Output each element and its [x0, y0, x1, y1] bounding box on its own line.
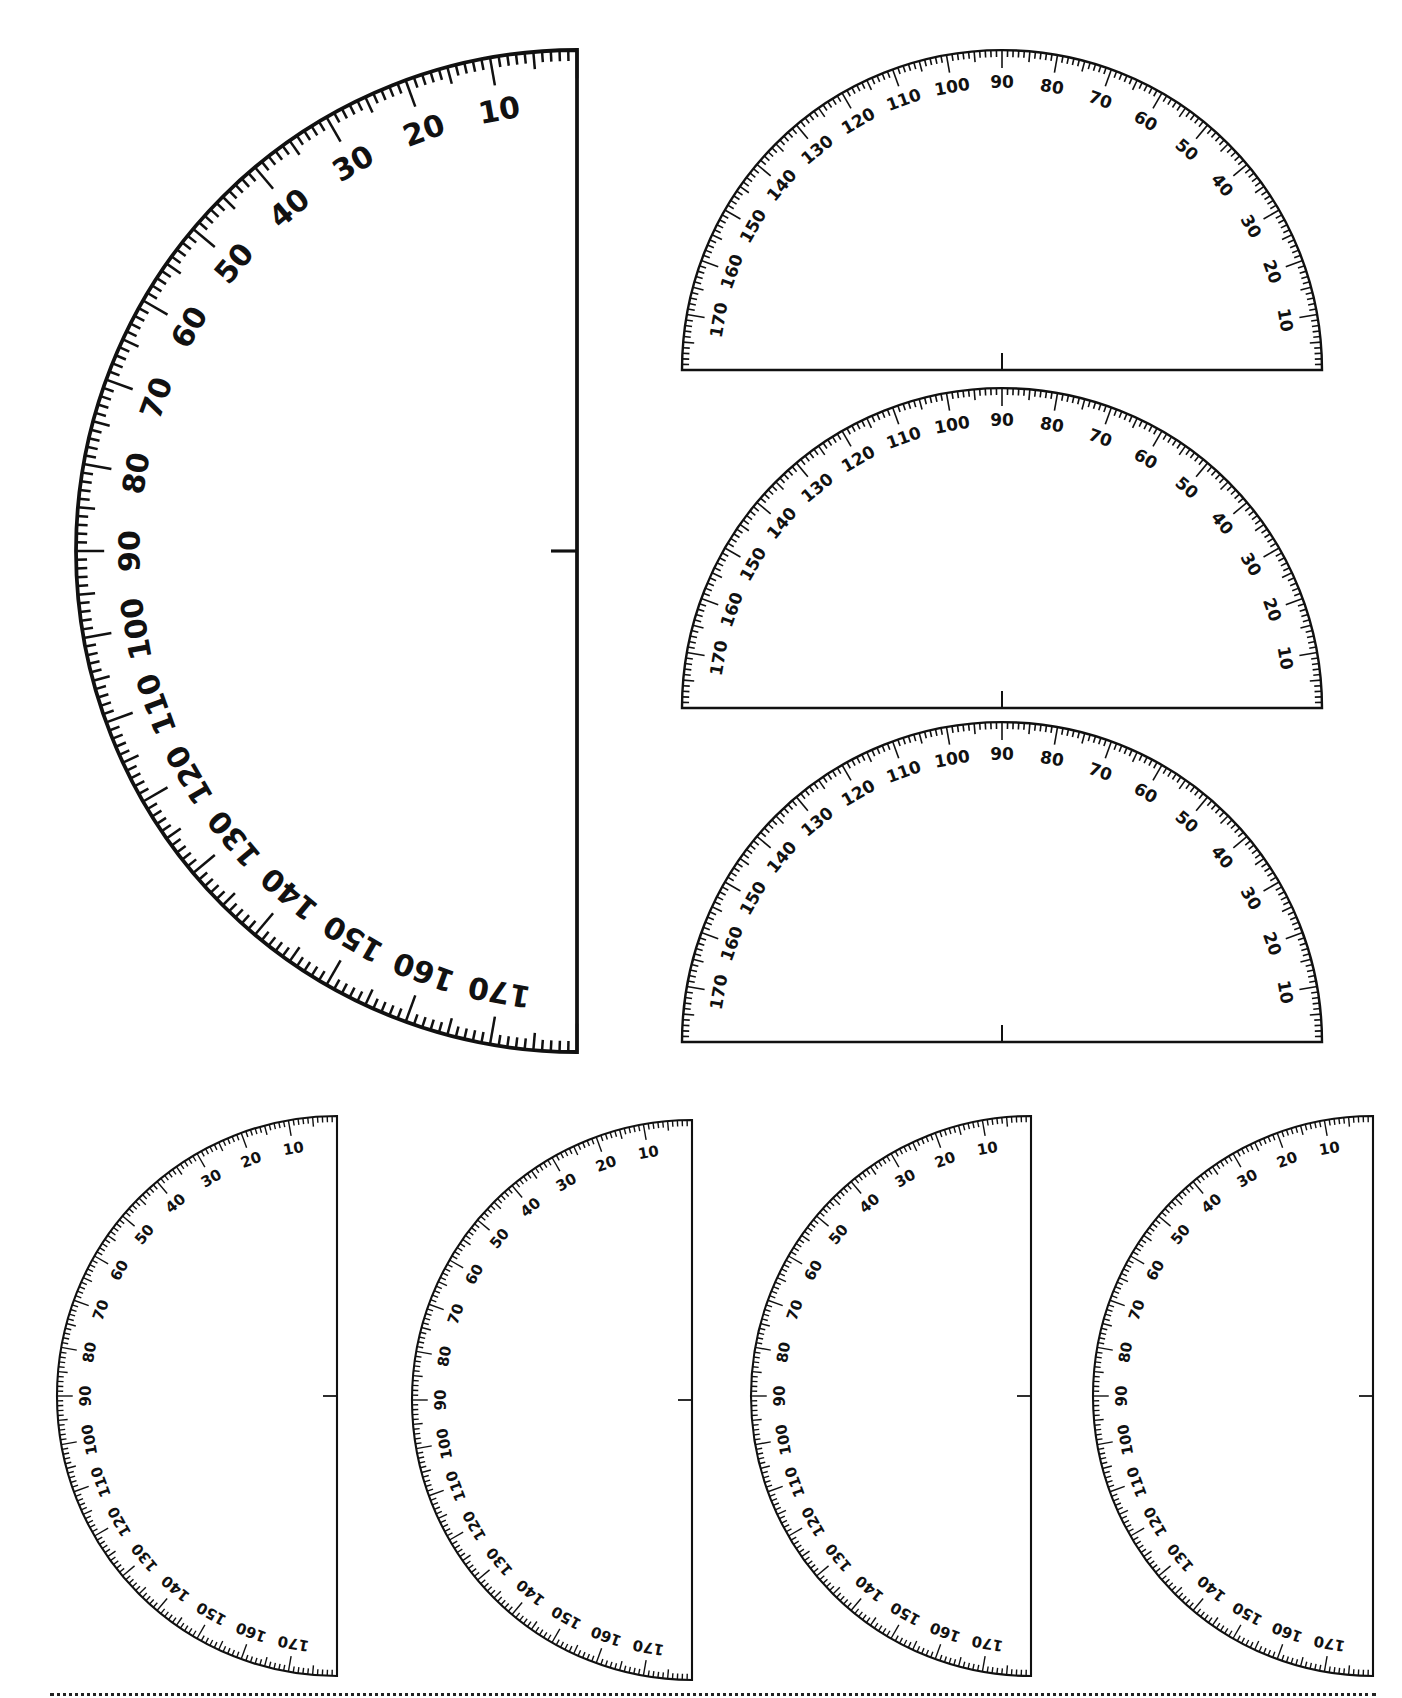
tick-mark [917, 1646, 919, 1652]
tick-mark [77, 1499, 83, 1501]
tick-mark [293, 1667, 294, 1673]
tick-mark [823, 777, 827, 783]
tick-mark [520, 1616, 524, 1621]
tick-mark [768, 1300, 783, 1305]
tick-mark [1249, 173, 1255, 177]
tick-mark [694, 282, 701, 284]
tick-mark [954, 1659, 956, 1665]
tick-mark [105, 1549, 110, 1552]
tick-mark [753, 1367, 759, 1368]
tick-mark [142, 1593, 146, 1597]
tick-mark [1329, 1667, 1330, 1673]
tick-mark [1097, 1442, 1113, 1445]
tick-mark [172, 1618, 176, 1623]
tick-mark [447, 1018, 451, 1035]
tick-mark [512, 1602, 522, 1614]
tick-mark [1231, 490, 1236, 495]
tick-mark [946, 55, 949, 73]
tick-mark [223, 1646, 225, 1652]
tick-mark [807, 1227, 812, 1231]
tick-mark [274, 1663, 275, 1669]
tick-mark [1264, 1138, 1266, 1144]
tick-mark [162, 271, 171, 277]
tick-mark [810, 1565, 815, 1569]
tick-mark [406, 995, 416, 1021]
tick-mark [1264, 1648, 1266, 1654]
tick-mark [1278, 892, 1284, 895]
tick-mark [605, 1134, 607, 1140]
tick-mark [177, 249, 186, 256]
degree-label: 40 [1207, 508, 1238, 539]
tick-mark [1051, 54, 1052, 61]
tick-mark [722, 887, 728, 890]
tick-mark [90, 1525, 95, 1528]
tick-mark [643, 1660, 646, 1676]
tick-mark [752, 1420, 762, 1421]
degree-label: 110 [129, 669, 183, 740]
degree-label: 170 [706, 301, 732, 340]
tick-mark [65, 1328, 71, 1329]
degree-label: 110 [884, 422, 924, 453]
tick-mark [1313, 675, 1320, 676]
tick-mark [1179, 446, 1185, 455]
tick-mark [776, 144, 784, 152]
tick-mark [312, 967, 318, 976]
tick-mark [426, 1485, 432, 1487]
tick-mark [1178, 1195, 1182, 1199]
tick-mark [703, 927, 710, 930]
tick-mark [1311, 320, 1318, 321]
tick-mark [763, 1476, 769, 1478]
tick-mark [1199, 121, 1203, 126]
tick-mark [381, 1002, 385, 1012]
tick-mark [931, 1652, 933, 1658]
tick-mark [193, 1156, 196, 1161]
tick-mark [1155, 1568, 1160, 1572]
degree-label: 10 [476, 89, 523, 131]
tick-mark [1311, 992, 1318, 993]
tick-mark [756, 1448, 762, 1449]
tick-mark [592, 1656, 594, 1662]
tick-mark [1250, 1642, 1253, 1648]
degree-label: 130 [200, 804, 267, 874]
degree-label: 110 [781, 1464, 809, 1500]
tick-mark [759, 1462, 765, 1463]
tick-mark [832, 771, 836, 777]
tick-mark [753, 169, 758, 173]
tick-mark [1186, 1188, 1190, 1193]
tick-mark [1138, 1244, 1143, 1247]
tick-mark [97, 1252, 102, 1255]
tick-mark [350, 105, 355, 115]
tick-mark [710, 912, 716, 915]
tick-mark [801, 121, 805, 126]
tick-mark [712, 235, 722, 240]
tick-mark [162, 825, 171, 831]
degree-label: 160 [716, 251, 747, 291]
tick-mark [1300, 625, 1311, 628]
tick-mark [1312, 663, 1319, 664]
tick-mark [922, 1138, 924, 1144]
degree-label: 50 [1171, 806, 1202, 837]
tick-mark [58, 1372, 68, 1373]
tick-mark [1046, 391, 1047, 398]
tick-mark [464, 63, 466, 74]
degree-label: 70 [1086, 758, 1115, 785]
tick-mark [176, 1167, 182, 1175]
tick-mark [1286, 261, 1303, 267]
tick-mark [1208, 1169, 1212, 1174]
tick-mark [1303, 282, 1310, 284]
tick-mark [237, 1652, 239, 1658]
tick-mark [1270, 877, 1276, 881]
degree-label: 20 [398, 107, 449, 154]
tick-mark [919, 399, 922, 410]
tick-mark [687, 314, 705, 317]
tick-mark [512, 1186, 522, 1198]
degree-label: 100 [1114, 1423, 1137, 1457]
tick-mark [663, 1122, 664, 1128]
tick-mark [1235, 156, 1240, 161]
tick-mark [719, 892, 725, 895]
tick-mark [422, 75, 425, 85]
tick-mark [804, 1557, 809, 1561]
tick-mark [1308, 975, 1315, 976]
tick-mark [895, 1636, 898, 1641]
tick-mark [80, 611, 91, 612]
